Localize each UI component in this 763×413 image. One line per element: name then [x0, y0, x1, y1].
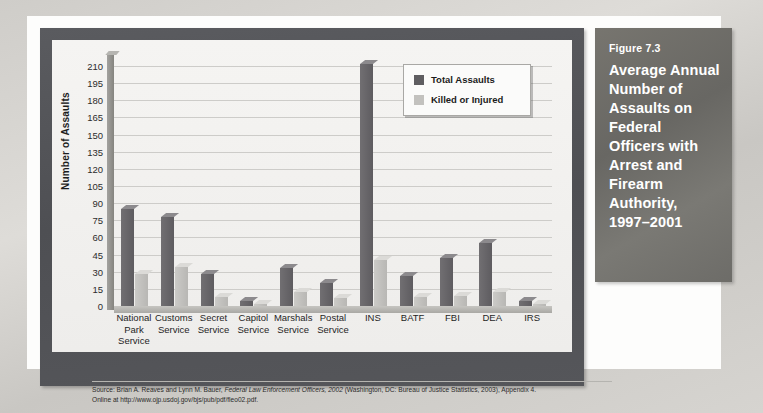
legend-swatch-total-assaults	[414, 75, 424, 85]
y-tick-0: 0	[98, 301, 103, 312]
bar-killed-or-injured	[175, 267, 188, 306]
legend-swatch-killed-or-injured	[414, 95, 424, 105]
bar-killed-or-injured	[414, 297, 427, 306]
x-axis-ticks: National Park ServiceCustoms ServiceSecr…	[114, 312, 552, 354]
y-tick-60: 60	[92, 232, 103, 243]
y-tick-135: 135	[87, 146, 103, 157]
bar-group	[154, 58, 194, 306]
legend-item-total-assaults: Total Assaults	[414, 74, 495, 85]
y-tick-210: 210	[87, 61, 103, 72]
bar-killed-or-injured	[533, 304, 546, 306]
bar-killed-or-injured	[254, 304, 267, 306]
bar-total-assaults	[400, 276, 413, 306]
bar-group	[233, 58, 273, 306]
legend-label-killed-or-injured: Killed or Injured	[431, 94, 503, 105]
source-divider	[92, 381, 612, 382]
bar-killed-or-injured	[374, 260, 387, 306]
source-line-1-post: (Washington, DC: Bureau of Justice Stati…	[343, 386, 536, 393]
legend-label-total-assaults: Total Assaults	[431, 74, 495, 85]
y-tick-195: 195	[87, 78, 103, 89]
y-axis-title: Number of Assaults	[60, 92, 71, 190]
bar-killed-or-injured	[334, 298, 347, 306]
source-line-2: Online at http://www.ojp.usdoj.gov/bjs/p…	[92, 396, 258, 403]
figure-title: Average Annual Number of Assaults on Fed…	[609, 61, 720, 232]
figure-number: Figure 7.3	[609, 42, 720, 54]
source-note: Source: Brian A. Reaves and Lynn M. Baue…	[92, 385, 612, 405]
y-tick-45: 45	[92, 249, 103, 260]
bar-killed-or-injured	[493, 292, 506, 306]
bar-total-assaults	[479, 243, 492, 306]
y-tick-105: 105	[87, 181, 103, 192]
figure-page: Number of Assaults 015304560759010512013…	[0, 0, 763, 413]
y-tick-30: 30	[92, 266, 103, 277]
y-tick-90: 90	[92, 198, 103, 209]
y-tick-180: 180	[87, 95, 103, 106]
y-tick-75: 75	[92, 215, 103, 226]
y-tick-150: 150	[87, 129, 103, 140]
bar-total-assaults	[360, 64, 373, 306]
bar-group	[353, 58, 393, 306]
y-axis-cap	[105, 51, 119, 55]
bar-killed-or-injured	[135, 274, 148, 306]
figure-title-panel: Figure 7.3 Average Annual Number of Assa…	[595, 28, 732, 282]
y-tick-15: 15	[92, 283, 103, 294]
bar-group	[194, 58, 234, 306]
bar-killed-or-injured	[454, 296, 467, 306]
bar-group	[313, 58, 353, 306]
y-axis	[107, 54, 114, 310]
source-line-1-pre: Source: Brian A. Reaves and Lynn M. Baue…	[92, 386, 224, 393]
legend-item-killed-or-injured: Killed or Injured	[414, 94, 503, 105]
bar-group	[114, 58, 154, 306]
bar-total-assaults	[440, 258, 453, 306]
bar-group	[273, 58, 313, 306]
y-tick-120: 120	[87, 163, 103, 174]
bar-total-assaults	[161, 217, 174, 306]
bar-total-assaults	[320, 283, 333, 306]
bar-total-assaults	[240, 301, 253, 306]
chart-panel: Number of Assaults 015304560759010512013…	[52, 40, 572, 352]
bar-total-assaults	[201, 274, 214, 306]
bar-total-assaults	[519, 301, 532, 306]
bar-total-assaults	[121, 209, 134, 306]
bar-killed-or-injured	[294, 292, 307, 306]
chart-frame: Number of Assaults 015304560759010512013…	[40, 28, 584, 386]
chart-legend: Total Assaults Killed or Injured	[403, 64, 531, 116]
bar-killed-or-injured	[215, 297, 228, 306]
x-tick-label: IRS	[506, 312, 558, 324]
source-line-1-title: Federal Law Enforcement Officers, 2002	[224, 386, 342, 393]
y-tick-165: 165	[87, 112, 103, 123]
bar-total-assaults	[280, 268, 293, 306]
